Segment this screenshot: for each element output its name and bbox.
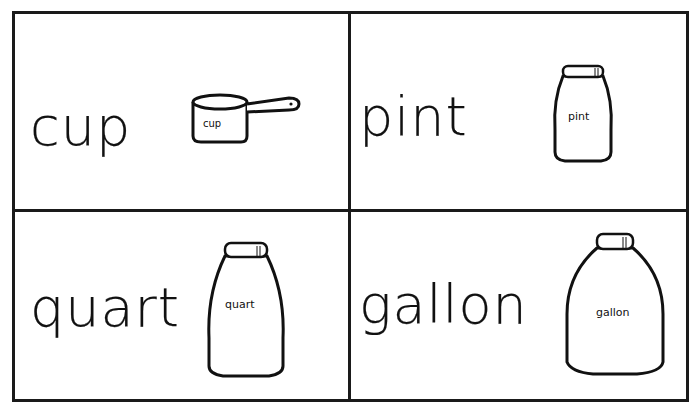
cup-label: cup (203, 118, 221, 129)
quart-label: quart (225, 298, 255, 311)
pint-label: pint (568, 110, 589, 123)
card-word: cup (30, 100, 131, 154)
card-quart: quart quart (15, 212, 348, 399)
gallon-jug-icon (563, 224, 667, 380)
card-pint: pint pint (351, 14, 686, 209)
card-word: gallon (359, 278, 528, 332)
card-word: quart (30, 281, 180, 335)
card-gallon: gallon gallon (351, 212, 686, 399)
word-card-sheet: cup cup pint pint quart quart ga (12, 11, 689, 402)
card-cup: cup cup (15, 14, 348, 209)
gallon-label: gallon (596, 306, 630, 319)
card-word: pint (359, 90, 468, 144)
